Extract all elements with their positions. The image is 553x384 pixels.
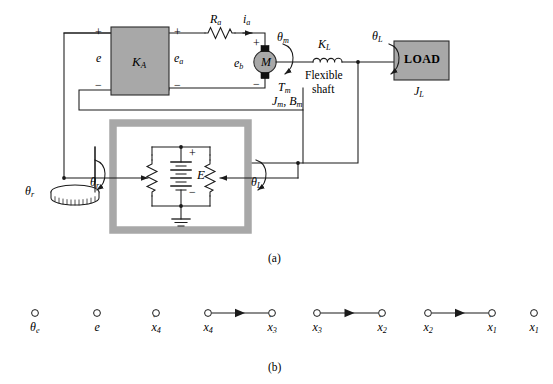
flow-arrowhead [235, 309, 245, 317]
flow-node-label-n4: x4 [204, 321, 213, 335]
error-minus-sign: − [95, 79, 102, 91]
flow-arrowhead [455, 309, 465, 317]
battery-plus-sign: + [189, 147, 196, 159]
load-angle-label: θL [372, 30, 382, 44]
eb-minus-sign: − [253, 78, 260, 90]
load-inertia-label: JL [414, 85, 424, 99]
armature-resistor [205, 28, 235, 39]
armature-bottom-wire [169, 78, 265, 90]
flow-node-label-n7: ˙x2 [378, 321, 387, 335]
flow-node-label-n6: x3 [313, 321, 322, 335]
flow-node-label-n10: x1 [530, 321, 539, 335]
amplifier-label: KA [132, 55, 146, 70]
flow-node-label-n3: ˙x4 [152, 321, 161, 335]
motor-inertia-damping-label: Jm, Bm [272, 95, 302, 109]
feedback-wire-outer [64, 33, 111, 178]
flexible-shaft-label-line2: shaft [312, 84, 334, 96]
flexible-shaft-coil [313, 58, 342, 62]
flow-node-n4[interactable] [205, 310, 212, 317]
battery-minus-sign: − [189, 186, 196, 198]
motor-label: M [261, 56, 271, 68]
ea-plus-sign: + [174, 26, 181, 38]
ground-symbol [172, 219, 190, 226]
shaft-stiffness-label: KL [318, 38, 331, 52]
ea-minus-sign: − [174, 79, 181, 91]
battery-symbol [171, 162, 191, 190]
junction-dot [179, 145, 183, 149]
back-emf-label: eb [234, 57, 243, 71]
pot-theta-r-label: θr [90, 176, 99, 190]
armature-current-label: ia [243, 13, 250, 27]
pot-left-resistor [147, 155, 157, 206]
caption-a: (a) [268, 253, 281, 265]
flow-arrowhead [345, 309, 355, 317]
battery-label: E [197, 168, 205, 181]
flow-node-label-n8: x2 [424, 321, 433, 335]
armature-resistance-label: Ra [210, 13, 221, 27]
flow-node-n10[interactable] [531, 310, 538, 317]
junction-dot [356, 60, 360, 64]
flow-node-label-n9: ˙x1 [488, 321, 497, 335]
flow-node-n6[interactable] [314, 310, 321, 317]
flow-node-n8[interactable] [425, 310, 432, 317]
load-block-label: LOAD [404, 53, 440, 65]
junction-dot [62, 176, 66, 180]
flow-node-label-n5: ˙x3 [268, 321, 277, 335]
error-plus-sign: + [95, 26, 102, 38]
armature-voltage-label: ea [174, 52, 183, 66]
flexible-shaft-label-line1: Flexible [305, 70, 343, 82]
motor-angle-label: θm [277, 31, 289, 45]
flow-node-label-n1: θe [30, 321, 40, 335]
junction-dot [179, 204, 183, 208]
pot-right-resistor [205, 155, 215, 206]
pot-theta-L-label: θL [251, 176, 261, 190]
eb-plus-sign: + [253, 37, 260, 49]
rotation-arrow-theta-m [283, 44, 293, 74]
error-voltage-label: e [96, 52, 101, 64]
flow-node-n2[interactable] [94, 310, 101, 317]
knob-theta-r-label: θr [25, 185, 34, 199]
flow-node-label-n2: e [95, 321, 100, 333]
state-variable-node-graph [32, 309, 538, 317]
flow-node-n1[interactable] [32, 310, 39, 317]
caption-b: (b) [268, 362, 281, 374]
